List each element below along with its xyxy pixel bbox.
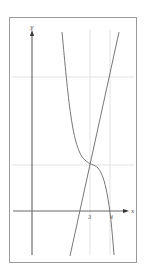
graph-figure: y x 3 4	[0, 0, 147, 273]
figure-frame	[10, 18, 137, 263]
y-axis-label: y	[29, 23, 34, 31]
x-tick-3: 3	[88, 214, 91, 220]
